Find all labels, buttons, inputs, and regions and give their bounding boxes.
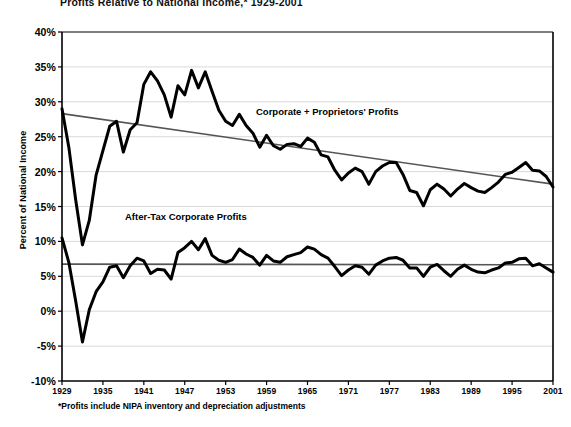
series-line-after-tax-corporate xyxy=(62,238,553,342)
trend-line-lower-trend xyxy=(62,264,553,265)
series-label-corporate-proprietors: Corporate + Proprietors' Profits xyxy=(256,106,398,117)
chart-container: Profits Relative to National Income,* 19… xyxy=(0,0,571,427)
plot-area xyxy=(0,0,571,427)
chart-footnote: *Profits include NIPA inventory and depr… xyxy=(58,401,306,411)
series-label-after-tax-corporate: After-Tax Corporate Profits xyxy=(125,211,247,222)
